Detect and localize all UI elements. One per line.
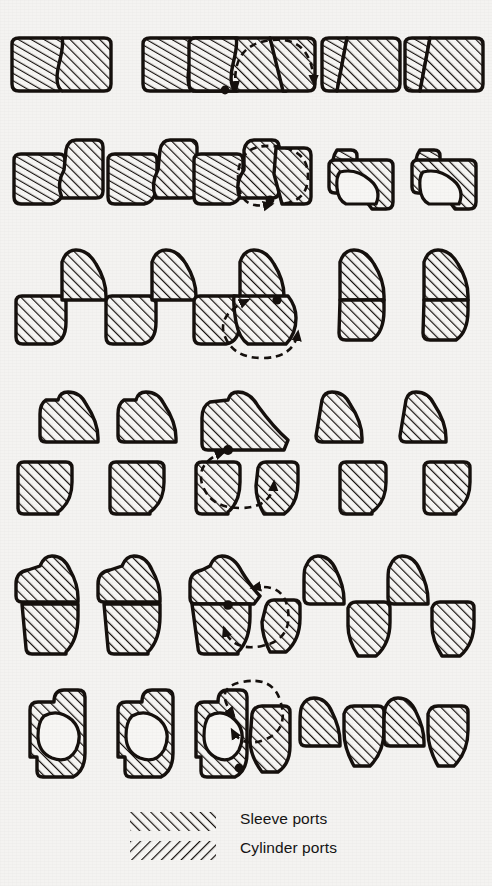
row-2-cell-1 [14,140,103,204]
row-7-cell-5 [384,698,468,766]
row-6-cell-2 [98,556,160,654]
pivot-dot [221,86,230,95]
legend-label-cylinder-ports: Cylinder ports [240,839,337,857]
row-4-cell-2 [118,392,176,442]
row-6-cell-5 [388,556,474,656]
row-4-cell-1 [40,392,98,442]
legend-item-sleeve-ports: Sleeve ports [228,810,327,828]
row-5-cell-2 [110,462,164,514]
row-1-cell-5 [405,38,483,91]
row-3-cell-4 [339,250,384,340]
row-1-cell-1 [12,38,111,91]
row-2-cell-2 [108,140,197,204]
row-3-cell-1 [16,250,106,344]
row-2-cell-5 [412,150,476,209]
row-7-cell-2 [118,690,173,777]
row-6-group [16,556,474,656]
row-4-cell-3 [202,392,288,450]
legend-label-sleeve-ports: Sleeve ports [240,810,327,828]
legend-swatch-sleeve-ports [130,812,216,831]
pivot-dot [266,196,275,205]
legend-swatch-cylinder-ports [130,841,216,860]
row-7-cell-1 [30,690,85,777]
row-7-cell-4 [300,698,384,766]
row-5-cell-1 [18,462,72,514]
row-5-cell-3 [196,462,298,514]
row-5-cell-4 [340,462,386,514]
row-3-group [16,250,468,344]
row-1-cell-4 [322,38,400,91]
legend-item-cylinder-ports: Cylinder ports [228,839,337,857]
pivot-dot [272,295,281,304]
pivot-dot [223,445,233,455]
row-6-cell-4 [304,556,390,656]
row-4-cell-5 [400,392,446,442]
legend-swatches [130,812,216,860]
row-4-cell-4 [316,392,362,442]
row-2-cell-4 [329,150,393,209]
diagram-canvas [0,0,492,886]
row-3-cell-2 [106,250,196,344]
pivot-dot [235,764,244,773]
pivot-dot [223,600,233,610]
row-5-group [18,462,470,514]
row-7-group [30,690,468,777]
row-4-group [40,392,446,450]
port-timing-figure: Sleeve ports Cylinder ports [0,0,492,886]
row-3-cell-5 [423,250,468,340]
row-3-cell-3 [194,250,296,344]
row-6-cell-3 [190,556,300,654]
row-6-cell-1 [16,556,78,654]
row-1-group [12,38,483,91]
row-5-cell-5 [424,462,470,514]
row-7-cell-3 [196,690,290,777]
